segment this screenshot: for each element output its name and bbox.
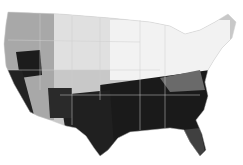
map-body: [0, 0, 243, 165]
region-florida-light: [182, 128, 206, 156]
region-midwest-northeast: [110, 20, 230, 80]
us-county-choropleth-map: [0, 0, 243, 165]
region-arizona-dark: [48, 88, 72, 118]
